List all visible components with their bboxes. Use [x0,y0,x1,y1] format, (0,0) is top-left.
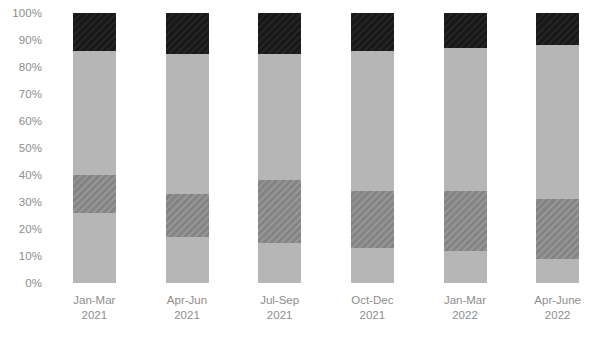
bar-segment-segment-4-black[interactable] [73,13,116,51]
category-label-line2: 2022 [512,308,603,323]
bar-group[interactable]: Jan-Mar2022 [444,0,487,337]
bar-segment-segment-2-dark-gray-hatched[interactable] [351,191,394,248]
bar-segment-segment-4-black[interactable] [444,13,487,48]
bar-segment-segment-2-dark-gray-hatched[interactable] [166,194,209,237]
bar-group[interactable]: Jan-Mar2021 [73,0,116,337]
y-axis-tick-label: 20% [19,223,42,235]
y-axis-tick-label: 100% [12,7,42,19]
bar-segment-segment-1-light-gray[interactable] [73,213,116,283]
y-axis-tick-label: 70% [19,88,42,100]
x-axis-category-label: Apr-June2022 [512,293,603,323]
bar-segment-segment-4-black[interactable] [166,13,209,54]
bar-segment-segment-4-black[interactable] [258,13,301,54]
category-label-line2: 2021 [327,308,418,323]
category-label-line1: Apr-June [534,294,581,306]
y-axis-tick-label: 0% [25,277,42,289]
y-axis-tick-label: 90% [19,34,42,46]
bar-group[interactable]: Oct-Dec2021 [351,0,394,337]
bar-segment-segment-3-medium-gray[interactable] [166,54,209,194]
y-axis-tick-label: 80% [19,61,42,73]
category-label-line1: Oct-Dec [351,294,393,306]
stacked-bar-chart: 0%10%20%30%40%50%60%70%80%90%100% Jan-Ma… [0,0,604,337]
y-axis: 0%10%20%30%40%50%60%70%80%90%100% [0,0,48,337]
stacked-bar[interactable] [258,13,301,283]
bar-segment-segment-2-dark-gray-hatched[interactable] [258,180,301,242]
category-label-line1: Jan-Mar [73,294,115,306]
category-label-line2: 2021 [234,308,325,323]
x-axis-category-label: Jan-Mar2021 [49,293,140,323]
x-axis-category-label: Jan-Mar2022 [420,293,511,323]
x-axis-category-label: Jul-Sep2021 [234,293,325,323]
bar-group[interactable]: Apr-Jun2021 [166,0,209,337]
y-axis-tick-label: 10% [19,250,42,262]
bar-segment-segment-1-light-gray[interactable] [536,259,579,283]
bar-segment-segment-3-medium-gray[interactable] [73,51,116,175]
bar-segment-segment-1-light-gray[interactable] [258,243,301,284]
bar-segment-segment-4-black[interactable] [536,13,579,45]
bar-segment-segment-1-light-gray[interactable] [351,248,394,283]
bar-group[interactable]: Jul-Sep2021 [258,0,301,337]
x-axis-category-label: Oct-Dec2021 [327,293,418,323]
bar-segment-segment-3-medium-gray[interactable] [351,51,394,191]
bar-segment-segment-2-dark-gray-hatched[interactable] [73,175,116,213]
category-label-line1: Jul-Sep [260,294,299,306]
y-axis-tick-label: 40% [19,169,42,181]
x-axis-category-label: Apr-Jun2021 [142,293,233,323]
bar-segment-segment-4-black[interactable] [351,13,394,51]
y-axis-tick-label: 60% [19,115,42,127]
bar-segment-segment-2-dark-gray-hatched[interactable] [444,191,487,250]
bar-segment-segment-2-dark-gray-hatched[interactable] [536,199,579,258]
category-label-line2: 2021 [49,308,140,323]
stacked-bar[interactable] [166,13,209,283]
stacked-bar[interactable] [444,13,487,283]
category-label-line1: Apr-Jun [167,294,207,306]
bar-segment-segment-1-light-gray[interactable] [166,237,209,283]
bar-group[interactable]: Apr-June2022 [536,0,579,337]
y-axis-tick-label: 50% [19,142,42,154]
bar-segment-segment-3-medium-gray[interactable] [258,54,301,181]
bar-segment-segment-3-medium-gray[interactable] [444,48,487,191]
y-axis-tick-label: 30% [19,196,42,208]
category-label-line2: 2021 [142,308,233,323]
stacked-bar[interactable] [536,13,579,283]
stacked-bar[interactable] [351,13,394,283]
stacked-bar[interactable] [73,13,116,283]
category-label-line2: 2022 [420,308,511,323]
bar-segment-segment-1-light-gray[interactable] [444,251,487,283]
category-label-line1: Jan-Mar [444,294,486,306]
bar-segment-segment-3-medium-gray[interactable] [536,45,579,199]
plot-area: Jan-Mar2021Apr-Jun2021Jul-Sep2021Oct-Dec… [48,0,604,337]
